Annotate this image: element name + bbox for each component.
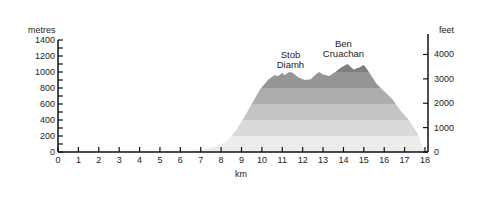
y2-tick-label: 4000 (434, 49, 454, 59)
x-tick-label: 10 (257, 155, 267, 165)
y2-tick-label: 2000 (434, 98, 454, 108)
x-tick-label: 11 (278, 155, 287, 165)
y-axis-label: metres (28, 25, 56, 35)
x-tick-label: 6 (178, 155, 183, 165)
x-tick-label: 12 (298, 155, 308, 165)
x-tick-label: 17 (400, 155, 410, 165)
y-tick-label: 1200 (35, 51, 55, 61)
elevation-band (58, 104, 425, 120)
elevation-band (58, 40, 425, 56)
y-tick-label: 800 (40, 83, 55, 93)
x-axis-label: km (235, 169, 247, 179)
elevation-band (58, 88, 425, 104)
y-tick-label: 600 (40, 99, 55, 109)
elevation-bands (58, 40, 425, 152)
elevation-profile-chart: 0123456789101112131415161718020040060080… (0, 0, 481, 222)
x-tick-label: 1 (76, 155, 81, 165)
x-tick-label: 16 (379, 155, 389, 165)
x-tick-label: 4 (137, 155, 142, 165)
peak-label: Diamh (277, 59, 304, 70)
elevation-band (58, 120, 425, 136)
x-tick-label: 2 (96, 155, 101, 165)
x-tick-label: 0 (55, 155, 60, 165)
x-tick-label: 18 (420, 155, 430, 165)
y2-axis-label: feet (439, 25, 455, 35)
elevation-band (58, 56, 425, 72)
y-tick-label: 1400 (35, 35, 55, 45)
y2-tick-label: 0 (434, 147, 439, 157)
y2-tick-label: 3000 (434, 74, 454, 84)
y-tick-label: 0 (50, 147, 55, 157)
x-tick-label: 8 (219, 155, 224, 165)
x-tick-label: 15 (359, 155, 369, 165)
x-tick-label: 7 (198, 155, 203, 165)
y2-tick-label: 1000 (434, 123, 454, 133)
x-tick-label: 9 (239, 155, 244, 165)
elevation-band (58, 72, 425, 88)
y-tick-label: 200 (40, 131, 55, 141)
x-tick-label: 3 (117, 155, 122, 165)
y-tick-label: 1000 (35, 67, 55, 77)
x-tick-label: 13 (318, 155, 328, 165)
x-tick-label: 14 (338, 155, 348, 165)
peak-label: Cruachan (323, 48, 364, 59)
peak-annotations: StobDiamhBenCruachan (277, 38, 364, 69)
y-tick-label: 400 (40, 115, 55, 125)
x-tick-label: 5 (157, 155, 162, 165)
